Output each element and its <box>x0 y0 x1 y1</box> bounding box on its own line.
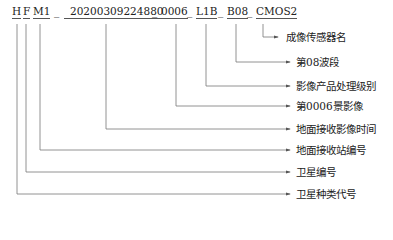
label-product-level: 影像产品处理级别 <box>296 80 376 92</box>
label-receive-time: 地面接收影像时间 <box>296 123 376 135</box>
arrow-product-level <box>206 24 290 86</box>
arrow-satellite-type <box>17 24 290 194</box>
arrow-receive-time <box>106 24 290 129</box>
label-band: 第08波段 <box>296 56 339 68</box>
label-satellite-type: 卫星种类代号 <box>296 188 356 200</box>
label-station: 地面接收站编号 <box>296 144 366 156</box>
arrow-station <box>40 24 290 150</box>
label-scene: 第0006景影像 <box>296 100 363 112</box>
label-sensor: 成像传感器名 <box>286 31 346 43</box>
arrow-sensor <box>263 24 278 37</box>
label-satellite-no: 卫星编号 <box>296 166 336 178</box>
arrow-scene <box>176 24 290 106</box>
